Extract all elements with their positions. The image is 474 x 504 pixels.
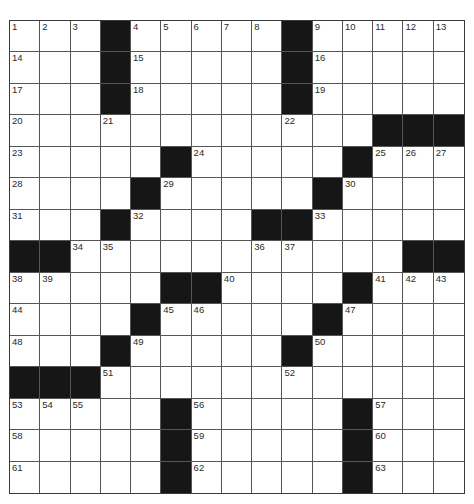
crossword-cell[interactable]: 2 [40,21,70,52]
crossword-cell[interactable]: 45 [161,304,191,335]
crossword-cell[interactable]: 20 [10,115,40,146]
crossword-cell[interactable] [252,462,282,493]
crossword-cell[interactable] [403,336,433,367]
crossword-cell[interactable] [252,178,282,209]
crossword-cell[interactable] [403,367,433,398]
crossword-cell[interactable] [313,367,343,398]
crossword-cell[interactable]: 52 [282,367,312,398]
crossword-cell[interactable] [161,367,191,398]
crossword-cell[interactable] [192,84,222,115]
crossword-cell[interactable]: 25 [373,147,403,178]
crossword-cell[interactable]: 9 [313,21,343,52]
crossword-cell[interactable] [434,210,464,241]
crossword-cell[interactable]: 61 [10,462,40,493]
crossword-cell[interactable] [192,52,222,83]
crossword-cell[interactable] [161,84,191,115]
crossword-cell[interactable]: 51 [101,367,131,398]
crossword-cell[interactable] [222,367,252,398]
crossword-cell[interactable] [313,273,343,304]
crossword-cell[interactable] [131,399,161,430]
crossword-cell[interactable]: 12 [403,21,433,52]
crossword-cell[interactable]: 28 [10,178,40,209]
crossword-cell[interactable]: 39 [40,273,70,304]
crossword-cell[interactable] [373,178,403,209]
crossword-cell[interactable]: 63 [373,462,403,493]
crossword-cell[interactable] [313,430,343,461]
crossword-cell[interactable] [101,399,131,430]
crossword-cell[interactable] [71,84,101,115]
crossword-cell[interactable] [71,178,101,209]
crossword-cell[interactable] [40,210,70,241]
crossword-cell[interactable] [313,399,343,430]
crossword-cell[interactable] [434,367,464,398]
crossword-cell[interactable] [403,210,433,241]
crossword-cell[interactable] [131,115,161,146]
crossword-cell[interactable] [434,462,464,493]
crossword-cell[interactable] [373,304,403,335]
crossword-cell[interactable] [373,210,403,241]
crossword-cell[interactable] [403,430,433,461]
crossword-cell[interactable] [131,241,161,272]
crossword-cell[interactable]: 50 [313,336,343,367]
crossword-cell[interactable]: 18 [131,84,161,115]
crossword-cell[interactable]: 35 [101,241,131,272]
crossword-cell[interactable] [40,336,70,367]
crossword-cell[interactable]: 43 [434,273,464,304]
crossword-cell[interactable] [101,273,131,304]
crossword-cell[interactable] [403,304,433,335]
crossword-cell[interactable] [282,430,312,461]
crossword-cell[interactable]: 8 [252,21,282,52]
crossword-cell[interactable] [40,147,70,178]
crossword-cell[interactable]: 10 [343,21,373,52]
crossword-cell[interactable] [343,115,373,146]
crossword-cell[interactable] [252,367,282,398]
crossword-cell[interactable] [313,147,343,178]
crossword-cell[interactable]: 38 [10,273,40,304]
crossword-cell[interactable] [343,241,373,272]
crossword-cell[interactable] [161,115,191,146]
crossword-cell[interactable]: 56 [192,399,222,430]
crossword-cell[interactable]: 7 [222,21,252,52]
crossword-cell[interactable]: 41 [373,273,403,304]
crossword-cell[interactable]: 55 [71,399,101,430]
crossword-cell[interactable] [71,115,101,146]
crossword-cell[interactable]: 37 [282,241,312,272]
crossword-cell[interactable] [71,336,101,367]
crossword-cell[interactable]: 53 [10,399,40,430]
crossword-cell[interactable] [252,115,282,146]
crossword-cell[interactable] [434,178,464,209]
crossword-cell[interactable]: 33 [313,210,343,241]
crossword-cell[interactable]: 3 [71,21,101,52]
crossword-cell[interactable] [192,241,222,272]
crossword-cell[interactable] [373,84,403,115]
crossword-cell[interactable] [403,84,433,115]
crossword-cell[interactable] [373,52,403,83]
crossword-cell[interactable]: 1 [10,21,40,52]
crossword-cell[interactable] [343,210,373,241]
crossword-cell[interactable] [282,399,312,430]
crossword-cell[interactable] [101,178,131,209]
crossword-cell[interactable] [434,304,464,335]
crossword-cell[interactable] [222,52,252,83]
crossword-cell[interactable] [313,462,343,493]
crossword-cell[interactable] [192,178,222,209]
crossword-cell[interactable]: 27 [434,147,464,178]
crossword-cell[interactable] [192,367,222,398]
crossword-cell[interactable] [71,430,101,461]
crossword-cell[interactable] [403,178,433,209]
crossword-cell[interactable] [161,52,191,83]
crossword-cell[interactable] [434,52,464,83]
crossword-cell[interactable]: 49 [131,336,161,367]
crossword-cell[interactable] [252,84,282,115]
crossword-cell[interactable]: 17 [10,84,40,115]
crossword-cell[interactable] [373,241,403,272]
crossword-cell[interactable] [192,210,222,241]
crossword-cell[interactable] [222,147,252,178]
crossword-cell[interactable] [131,367,161,398]
crossword-cell[interactable] [434,430,464,461]
crossword-cell[interactable]: 5 [161,21,191,52]
crossword-cell[interactable] [252,304,282,335]
crossword-cell[interactable] [403,462,433,493]
crossword-cell[interactable]: 54 [40,399,70,430]
crossword-cell[interactable]: 34 [71,241,101,272]
